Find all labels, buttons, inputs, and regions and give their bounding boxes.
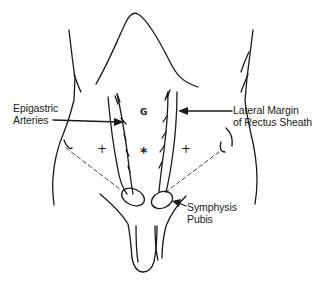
right-flank-branch [226,128,232,146]
right-dashed-line [166,152,219,192]
left-iliac-bump [64,140,72,149]
lateral-margin-label: Lateral Margin of Rectus Sheath [233,104,312,128]
epigastric-arteries-label: Epigastric Arteries [13,102,58,126]
symphysis-label-line2: Pubis [187,213,237,225]
symphysis-pubis-label: Symphysis Pubis [187,201,237,225]
lateral-margin-arrowhead [178,107,188,115]
lateral-margin-label-line2: of Rectus Sheath [233,116,312,128]
symphysis-label-line1: Symphysis [187,201,237,213]
marker-asterisk-center: * [140,145,147,159]
costal-margin-arch [96,13,198,87]
marker-plus-left: + [97,143,107,155]
marker-g: G [140,108,147,117]
symphysis-arrowhead [172,199,181,207]
diagram-drawing [0,0,319,284]
lateral-margin-label-line1: Lateral Margin [233,104,312,116]
right-iliac-loop [220,142,225,152]
epigastric-label-line2: Arteries [13,114,58,126]
abdominal-wall-diagram: Epigastric Arteries Lateral Margin of Re… [0,0,319,284]
left-dashed-line [66,148,121,190]
genital-outline-left [136,226,138,262]
epigastric-arrow-line [53,120,118,122]
right-epigastric-artery [159,92,168,192]
right-pubic-tubercle [149,188,176,212]
epigastric-label-line1: Epigastric [13,102,58,114]
left-rectus-lateral-margin [108,97,127,194]
marker-plus-right: + [181,143,191,155]
right-groin-line [162,196,186,258]
